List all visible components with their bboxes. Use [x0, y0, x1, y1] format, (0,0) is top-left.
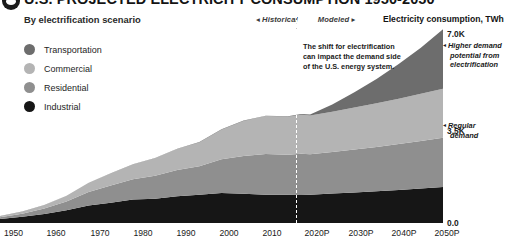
x-tick-1960: 1960 [46, 228, 65, 238]
x-tick-1950: 1950 [4, 228, 23, 238]
x-tick-2030P: 2030P [349, 228, 374, 238]
y-tick-7000: 7.0K [447, 29, 465, 39]
left-arrow-icon: ◂ [443, 42, 446, 50]
x-tick-2020P: 2020P [305, 228, 330, 238]
x-tick-1970: 1970 [90, 228, 109, 238]
page-subtitle: By electrification scenario [24, 14, 141, 25]
historical-label: ◂ Historical [256, 15, 298, 24]
callout-line-2: demand [443, 131, 478, 140]
modeled-label: Modeled ▸ [318, 15, 356, 24]
forecast-divider-line [296, 15, 297, 223]
x-tick-1980: 1980 [133, 228, 152, 238]
value-axis-label: Electricity consumption, TWh [383, 14, 504, 24]
publisher-logo-icon [2, 0, 20, 10]
chart-annotation: The shift for electrification can impact… [303, 42, 407, 72]
callout-higher-demand: ◂Higher demand potential from electrific… [443, 41, 502, 70]
chart-screenshot: U.S. PROJECTED ELECTRICITY CONSUMPTION 1… [0, 0, 505, 250]
page-title: U.S. PROJECTED ELECTRICITY CONSUMPTION 1… [24, 0, 435, 7]
x-tick-1990: 1990 [176, 228, 195, 238]
callout-line-2: potential from [443, 51, 499, 60]
x-tick-2050P: 2050P [435, 228, 460, 238]
callout-line-1: Regular [448, 121, 476, 130]
callout-line-1: Higher demand [448, 41, 502, 50]
y-tick-0: 0.0 [447, 218, 459, 228]
x-tick-2000: 2000 [219, 228, 238, 238]
callout-regular-demand: ◂Regular demand [443, 121, 478, 140]
x-tick-2010: 2010 [262, 228, 281, 238]
x-axis: 1950 1960 1970 1980 1990 2000 2010 2020P… [0, 228, 505, 248]
left-arrow-icon: ◂ [443, 122, 446, 130]
historical-modeled-label: ◂ HistoricalModeled ▸ [256, 15, 355, 24]
callout-line-3: electrification [443, 60, 498, 69]
x-tick-2040P: 2040P [392, 228, 417, 238]
